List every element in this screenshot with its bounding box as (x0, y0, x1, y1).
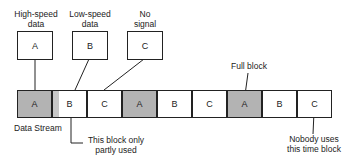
stream-block: C (87, 90, 122, 118)
label-line: data (8, 20, 64, 30)
block-letter: A (136, 99, 142, 109)
label-line: data (62, 20, 118, 30)
stream-block: B (52, 90, 87, 118)
block-letter: B (66, 99, 72, 109)
stream-block: B (157, 90, 192, 118)
box-letter: B (87, 41, 93, 51)
source-box-b: B (72, 31, 108, 60)
stream-block: C (192, 90, 227, 118)
block-letter: B (276, 99, 282, 109)
block-letter: B (171, 99, 177, 109)
box-letter: C (142, 41, 149, 51)
source-label-high-speed: High-speed data (8, 10, 64, 29)
source-box-c: C (127, 31, 163, 60)
annotation-full-block: Full block (222, 62, 276, 72)
block-letter: A (31, 99, 37, 109)
stream-block: A (17, 90, 52, 118)
source-box-a: A (17, 31, 53, 60)
block-letter: C (206, 99, 213, 109)
stream-block: A (227, 90, 262, 118)
source-label-no-signal: No signal (117, 10, 173, 29)
block-letter: A (241, 99, 247, 109)
data-stream-label: Data Stream (14, 124, 62, 134)
source-label-low-speed: Low-speed data (62, 10, 118, 29)
stream-block: A (122, 90, 157, 118)
block-letter: C (311, 99, 318, 109)
label-line: partly used (84, 146, 148, 156)
annotation-partly-used: This block only partly used (84, 136, 148, 155)
annotation-unused-block: Nobody uses this time block (282, 135, 346, 154)
box-letter: A (32, 41, 38, 51)
stream-block: C (297, 90, 332, 118)
label-line: signal (117, 20, 173, 30)
block-letter: C (101, 99, 108, 109)
stream-block: B (262, 90, 297, 118)
label-line: this time block (282, 145, 346, 155)
